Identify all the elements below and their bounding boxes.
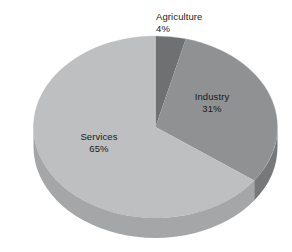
slice-label-services: Services 65% [66, 131, 132, 154]
pie-top-face [33, 36, 277, 218]
slice-label-industry: Industry 31% [186, 91, 238, 114]
slice-label-industry-name: Industry [186, 91, 238, 103]
pie-chart-svg [0, 0, 292, 252]
slice-label-agriculture-value: 4% [156, 23, 203, 35]
slice-label-services-name: Services [66, 131, 132, 143]
slice-label-agriculture: Agriculture 4% [156, 11, 203, 34]
slice-label-agriculture-name: Agriculture [156, 11, 203, 23]
slice-label-services-value: 65% [66, 143, 132, 155]
pie-chart-figure: Agriculture 4% Industry 31% Services 65% [0, 0, 292, 252]
slice-label-industry-value: 31% [186, 103, 238, 115]
